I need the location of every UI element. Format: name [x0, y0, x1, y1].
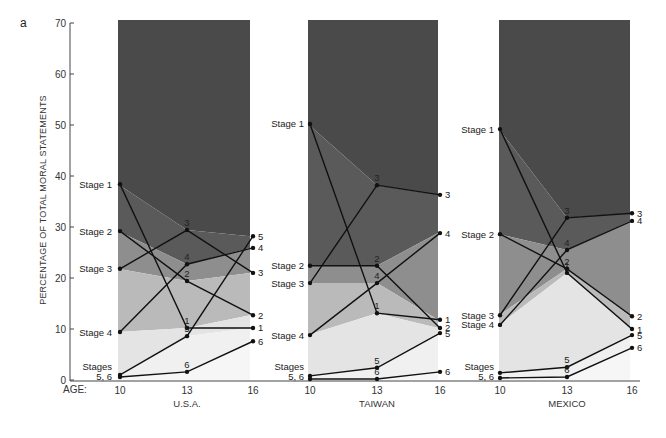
- stage-2-point: [308, 264, 312, 268]
- stage-label: Stage 2: [79, 226, 112, 237]
- y-tick-label: 60: [55, 69, 67, 80]
- stage-label: Stage 2: [271, 260, 304, 271]
- x-tick-label: 16: [626, 385, 638, 396]
- stage-label: Stage 2: [461, 229, 494, 240]
- point-label: 3: [445, 189, 450, 200]
- stage-4-point: [308, 333, 312, 337]
- x-tick-label: 13: [181, 385, 193, 396]
- point-label: 4: [445, 228, 450, 239]
- stage-1-point: [375, 311, 379, 315]
- point-label: 6: [637, 342, 642, 353]
- point-label: 3: [564, 205, 569, 216]
- y-axis-title: PERCENTAGE OF TOTAL MORAL STATEMENTS: [38, 95, 48, 305]
- x-tick-label: 16: [247, 385, 259, 396]
- point-label: 5: [445, 328, 450, 339]
- stage-2-point: [630, 314, 634, 318]
- stage-6-point: [498, 376, 502, 380]
- point-label: 2: [184, 268, 189, 279]
- stage-label: 5, 6: [478, 371, 494, 382]
- point-label: 2: [637, 311, 642, 322]
- stage-3-point: [118, 267, 122, 271]
- stage-3-point: [375, 183, 379, 187]
- stage-4-point: [118, 330, 122, 334]
- point-label: 4: [258, 242, 263, 253]
- stage-label: Stage 3: [79, 263, 112, 274]
- stage-5-point: [438, 331, 442, 335]
- stage-2-point: [118, 229, 122, 233]
- panel-mexico: 112233445566Stage 1Stage 2Stage 3Stage 4…: [461, 20, 642, 409]
- stage-1-point: [251, 326, 255, 330]
- point-label: 1: [374, 300, 379, 311]
- stage-3-point: [630, 211, 634, 215]
- stage-5-point: [498, 371, 502, 375]
- country-label: U.S.A.: [173, 398, 200, 409]
- x-tick-label: 10: [114, 385, 126, 396]
- stage-2-point: [375, 264, 379, 268]
- point-label: 6: [564, 364, 569, 375]
- point-label: 5: [258, 231, 263, 242]
- stage-6-point: [630, 346, 634, 350]
- point-label: 3: [374, 172, 379, 183]
- stage-6-point: [185, 370, 189, 374]
- point-label: 5: [637, 330, 642, 341]
- point-label: 6: [445, 366, 450, 377]
- moral-stages-chart: a 010203040506070 PERCENTAGE OF TOTAL MO…: [0, 0, 666, 438]
- stage-5-point: [251, 234, 255, 238]
- x-tick-label: 10: [304, 385, 316, 396]
- point-label: 3: [184, 217, 189, 228]
- stage-label: Stage 4: [461, 319, 494, 330]
- stage-label: Stage 4: [79, 327, 112, 338]
- stage-4-point: [185, 262, 189, 266]
- point-label: 6: [374, 366, 379, 377]
- stage-6-point: [375, 377, 379, 381]
- stage-6-point: [565, 375, 569, 379]
- y-tick-label: 30: [55, 222, 67, 233]
- point-label: 1: [258, 322, 263, 333]
- stage-1-point: [438, 318, 442, 322]
- country-label: TAIWAN: [359, 398, 395, 409]
- y-tick-label: 70: [55, 18, 67, 29]
- stage-3-point: [565, 216, 569, 220]
- stage-6-point: [118, 375, 122, 379]
- y-tick-label: 10: [55, 324, 67, 335]
- x-tick-label: 13: [561, 385, 573, 396]
- stage-4-point: [565, 248, 569, 252]
- stage-2-point: [498, 232, 502, 236]
- point-label: 5: [184, 323, 189, 334]
- point-label: 2: [564, 256, 569, 267]
- x-tick-label: 13: [371, 385, 383, 396]
- stage-3-point: [308, 281, 312, 285]
- y-tick-label: 50: [55, 120, 67, 131]
- stage-1-point: [630, 327, 634, 331]
- stage-label: Stage 1: [461, 124, 494, 135]
- stage-1-point: [118, 182, 122, 186]
- stage-2-point: [438, 326, 442, 330]
- point-label: 4: [184, 251, 189, 262]
- stage-4-point: [251, 246, 255, 250]
- stage-1-point: [565, 271, 569, 275]
- x-axis-title: AGE:: [63, 384, 87, 395]
- panel-usa: 112233445566Stage 1Stage 2Stage 3Stage 4…: [79, 20, 263, 409]
- point-label: 4: [564, 237, 569, 248]
- stage-3-point: [185, 228, 189, 232]
- stage-3-point: [498, 313, 502, 317]
- panel-taiwan: 112233445566Stage 1Stage 2Stage 3Stage 4…: [271, 20, 450, 409]
- stage-4-point: [630, 219, 634, 223]
- y-tick-label: 20: [55, 273, 67, 284]
- stage-label: 5, 6: [288, 371, 304, 382]
- stage-6-point: [251, 339, 255, 343]
- stage-label: 5, 6: [96, 371, 112, 382]
- stage-label: Stage 3: [271, 278, 304, 289]
- point-label: 3: [258, 267, 263, 278]
- stage-4-point: [375, 281, 379, 285]
- stage-label: Stage 1: [271, 118, 304, 129]
- stage-label: Stage 4: [271, 330, 304, 341]
- stage-5-point: [630, 333, 634, 337]
- stage-label: Stage 1: [79, 179, 112, 190]
- stage-4-point: [498, 323, 502, 327]
- stage-5-point: [185, 334, 189, 338]
- point-label: 6: [184, 359, 189, 370]
- x-tick-label: 10: [494, 385, 506, 396]
- stage-1-point: [498, 127, 502, 131]
- point-label: 4: [637, 215, 642, 226]
